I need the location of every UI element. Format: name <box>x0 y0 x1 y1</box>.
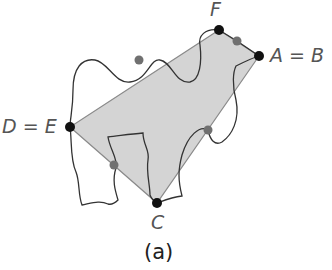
label-F: F <box>210 0 221 19</box>
intersection-point <box>233 37 242 46</box>
intersection-point <box>204 126 213 135</box>
shaded-polygon <box>70 30 259 203</box>
figure-caption: (a) <box>144 242 173 263</box>
vertex-C <box>152 198 162 208</box>
intersection-point <box>135 56 144 65</box>
label-D-equals-E: D = E <box>2 117 57 136</box>
vertex-AB <box>254 51 264 61</box>
label-A-equals-B: A = B <box>270 46 324 65</box>
vertex-F <box>214 25 224 35</box>
label-C: C <box>151 213 164 232</box>
intersection-point <box>110 161 119 170</box>
vertex-DE <box>65 122 75 132</box>
